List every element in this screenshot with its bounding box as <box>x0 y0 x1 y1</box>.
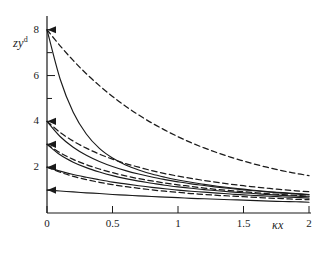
curve-solid-8 <box>47 30 309 195</box>
x-tick-label: 0 <box>33 217 61 229</box>
y-tick-label: 8 <box>17 23 39 35</box>
curve-dashed-4 <box>47 121 309 191</box>
y-axis-label: zyd <box>13 35 28 51</box>
x-axis-label: κx <box>272 218 284 233</box>
x-tick-label: 2 <box>295 217 323 229</box>
x-tick-label: 1.5 <box>230 217 258 229</box>
y-tick-label: 2 <box>17 160 39 172</box>
y-axis-label-superscript: d <box>24 35 28 44</box>
curves-layer <box>47 30 309 202</box>
curve-solid-4 <box>47 121 309 195</box>
x-tick-label: 0.5 <box>99 217 127 229</box>
curve-dashed-8 <box>47 30 309 176</box>
figure-chart: zyd κx 00.511.52 2468 <box>0 0 328 261</box>
curve-start-arrow <box>48 186 57 193</box>
x-tick-label: 1 <box>164 217 192 229</box>
y-tick-label: 6 <box>17 69 39 81</box>
axes-layer <box>47 16 311 213</box>
y-tick-label: 4 <box>17 114 39 126</box>
y-axis-label-main: zy <box>13 36 24 50</box>
